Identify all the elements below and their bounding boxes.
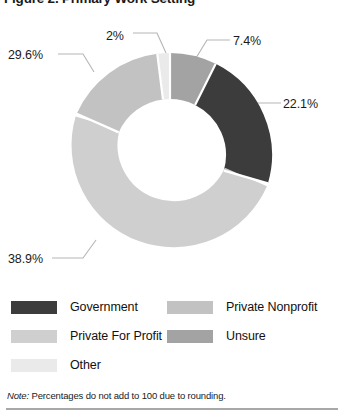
legend-item-government[interactable]: Government bbox=[11, 300, 138, 314]
legend-label-private-for-profit: Private For Profit bbox=[70, 329, 162, 343]
segment-other[interactable] bbox=[160, 76, 170, 77]
legend-swatch-other bbox=[11, 359, 57, 372]
note-text: Percentages do not add to 100 due to rou… bbox=[29, 390, 226, 401]
donut-segments bbox=[77, 53, 268, 224]
label-private-for-profit-pct: 38.9% bbox=[8, 252, 43, 266]
legend-item-private-nonprofit[interactable]: Private Nonprofit bbox=[167, 300, 317, 314]
label-government-pct: 22.1% bbox=[283, 97, 318, 111]
chart-area: 2% 7.4% 22.1% 38.9% 29.6% bbox=[0, 9, 344, 294]
legend-label-government: Government bbox=[70, 300, 138, 314]
segment-unsure[interactable] bbox=[170, 76, 205, 84]
legend-label-unsure: Unsure bbox=[226, 329, 266, 343]
legend-item-unsure[interactable]: Unsure bbox=[167, 329, 266, 343]
label-unsure-pct: 7.4% bbox=[233, 34, 261, 48]
page-title: Figure 2. Primary Work Setting bbox=[4, 0, 195, 6]
legend-swatch-government bbox=[11, 301, 57, 314]
donut-svg bbox=[62, 47, 278, 263]
legend-swatch-unsure bbox=[167, 330, 213, 343]
figure-title-clip: Figure 2. Primary Work Setting bbox=[0, 0, 344, 9]
donut-chart bbox=[62, 47, 278, 263]
note-prefix: Note: bbox=[7, 390, 29, 401]
legend-swatch-private-nonprofit bbox=[167, 301, 213, 314]
figure-note: Note: Percentages do not add to 100 due … bbox=[7, 390, 226, 401]
bottom-divider bbox=[6, 408, 338, 410]
chart-legend: Government Private Nonprofit Private For… bbox=[0, 296, 344, 376]
segment-government[interactable] bbox=[205, 84, 249, 177]
legend-label-private-nonprofit: Private Nonprofit bbox=[226, 300, 317, 314]
legend-swatch-private-for-profit bbox=[11, 330, 57, 343]
segment-private-for-profit[interactable] bbox=[95, 123, 246, 224]
label-private-nonprofit-pct: 29.6% bbox=[8, 48, 43, 62]
segment-private-nonprofit[interactable] bbox=[98, 77, 160, 123]
legend-item-other[interactable]: Other bbox=[11, 358, 101, 372]
label-other-pct: 2% bbox=[106, 29, 124, 43]
legend-item-private-for-profit[interactable]: Private For Profit bbox=[11, 329, 162, 343]
legend-label-other: Other bbox=[70, 358, 101, 372]
